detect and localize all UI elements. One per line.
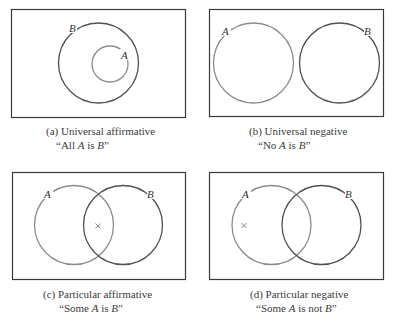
panel-b-caption-line1: (b) Universal negative bbox=[249, 125, 347, 138]
panel-d-label-b: B bbox=[345, 188, 352, 200]
panel-a-caption-line1: (a) Universal affirmative bbox=[46, 125, 155, 138]
panel-a-label-a: A bbox=[120, 49, 128, 61]
panel-d-particular-negative: A B (d) Particular negative “Some A is n… bbox=[210, 173, 384, 315]
panel-c-particular-affirmative: A B (c) Particular affirmative “Some A i… bbox=[13, 173, 186, 315]
panel-c-x-marker-icon bbox=[96, 224, 101, 229]
panel-b-frame bbox=[210, 10, 384, 117]
panel-a-frame bbox=[12, 10, 186, 118]
panel-a-label-b: B bbox=[69, 22, 76, 34]
panel-d-label-a: A bbox=[241, 188, 249, 200]
panel-b-label-b: B bbox=[364, 25, 371, 37]
panel-d-frame bbox=[210, 173, 384, 280]
panel-c-label-b: B bbox=[147, 188, 154, 200]
panel-a-circle-b bbox=[59, 23, 139, 103]
panel-d-caption-line2: “Some A is not B” bbox=[256, 302, 337, 314]
panel-b-caption-line2: “No A is B” bbox=[258, 139, 310, 151]
panel-a-universal-affirmative: B A (a) Universal affirmative “All A is … bbox=[12, 10, 186, 152]
panel-d-x-marker-icon bbox=[242, 223, 247, 228]
panel-c-caption-line2: “Some A is B” bbox=[59, 302, 123, 314]
panel-c-frame bbox=[13, 173, 186, 280]
panel-b-universal-negative: A B (b) Universal negative “No A is B” bbox=[210, 10, 384, 152]
venn-diagram-figure: B A (a) Universal affirmative “All A is … bbox=[0, 0, 397, 322]
panel-d-caption-line1: (d) Particular negative bbox=[250, 288, 348, 301]
panel-a-caption-line2: “All A is B” bbox=[56, 139, 109, 151]
panel-c-label-a: A bbox=[43, 188, 51, 200]
panel-b-label-a: A bbox=[221, 25, 229, 37]
panel-c-caption-line1: (c) Particular affirmative bbox=[43, 288, 152, 301]
